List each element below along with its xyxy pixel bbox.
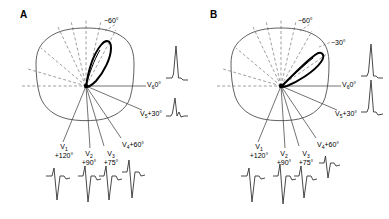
lead-label-v5-a: V5+30°	[140, 110, 162, 119]
vectorcardiogram-figure: A	[0, 0, 389, 219]
ecg-waveform-v3	[99, 166, 122, 200]
ecg-waveform-v3	[294, 166, 317, 198]
qrs-vector-loop-a	[86, 41, 111, 87]
ecg-waveform-v2	[273, 164, 296, 204]
lead-label-v4-a: V4+60°	[122, 141, 144, 150]
lead-label-v1-b: V1 +120°	[244, 143, 274, 159]
lead-label-v6-a: V60°	[147, 81, 161, 90]
electrical-origin-point	[279, 84, 283, 88]
ecg-waveform-v4	[319, 156, 340, 178]
panel-a: A	[0, 0, 194, 219]
angle-label-minus-60-a: −60°	[104, 17, 119, 25]
precordial-lead-axes	[258, 86, 341, 148]
panel-b-graphics	[195, 0, 389, 219]
chest-outline	[231, 28, 329, 121]
lead-axis-v1	[63, 86, 86, 142]
lead-axis-v3	[281, 86, 299, 146]
angle-label-minus-30-b: −30°	[331, 39, 346, 47]
lead-axis-v1	[258, 86, 281, 142]
ecg-waveform-v5	[166, 98, 188, 117]
ecg-waveform-v1	[46, 168, 70, 200]
lead-axis-v2	[86, 86, 90, 148]
electrical-origin-point	[84, 84, 88, 88]
lead-axis-v2	[281, 86, 285, 148]
precordial-lead-axes	[63, 86, 146, 148]
chest-outline	[36, 28, 134, 121]
lead-label-v4-b: V4+60°	[317, 141, 339, 150]
lead-label-v5-b: V5+30°	[335, 110, 357, 119]
lead-label-v1-a: V1 +120°	[49, 143, 79, 159]
lead-label-v6-b: V60°	[342, 81, 356, 90]
ecg-waveform-v6	[361, 44, 383, 78]
ecg-waveform-v4	[122, 160, 145, 198]
lead-label-v3-b: V3 +75°	[294, 150, 318, 166]
ecg-waveform-v5	[361, 80, 383, 115]
lead-label-v3-a: V3 +75°	[99, 150, 123, 166]
ecg-waveform-v2	[78, 166, 101, 202]
panel-b: B	[195, 0, 389, 219]
panel-a-graphics	[0, 0, 194, 219]
lead-axis-v3	[86, 86, 104, 146]
ecg-waveform-v6	[166, 46, 188, 80]
ecg-waveform-v1	[241, 168, 265, 202]
dashed-radial-reference-lines	[223, 19, 327, 86]
angle-label-minus-60-b: −60°	[298, 17, 313, 25]
